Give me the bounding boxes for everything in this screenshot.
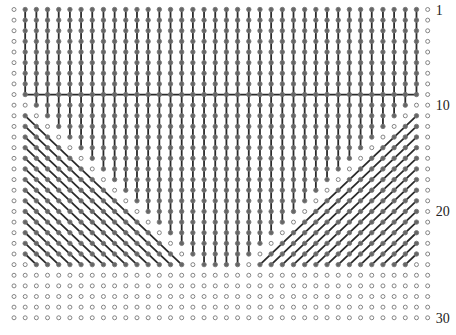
pin [101, 209, 105, 213]
pin [224, 209, 228, 213]
pin [213, 60, 217, 64]
pin [57, 177, 61, 181]
pin [12, 135, 16, 139]
pin [358, 7, 362, 11]
pin [370, 252, 374, 256]
pin [34, 316, 38, 320]
pin [23, 220, 27, 224]
pin [146, 71, 150, 75]
pin [191, 167, 195, 171]
pin [191, 284, 195, 288]
pin [79, 103, 83, 107]
pin [202, 295, 206, 299]
pin [381, 18, 385, 22]
pin [101, 103, 105, 107]
pin [90, 18, 94, 22]
pin [101, 284, 105, 288]
pin [168, 145, 172, 149]
pin [101, 295, 105, 299]
pin [426, 199, 430, 203]
pin [146, 199, 150, 203]
pin [157, 167, 161, 171]
pin [235, 167, 239, 171]
pin [146, 241, 150, 245]
pin [381, 71, 385, 75]
pin [124, 92, 128, 96]
pin [112, 135, 116, 139]
pin [302, 231, 306, 235]
pin [347, 29, 351, 33]
pin [34, 92, 38, 96]
pin [57, 252, 61, 256]
pin [291, 262, 295, 266]
pin [135, 305, 139, 309]
pin [280, 29, 284, 33]
pin [235, 220, 239, 224]
pin [258, 241, 262, 245]
pin [303, 273, 307, 277]
pin [157, 114, 161, 118]
pin [381, 156, 385, 160]
pin [124, 18, 128, 22]
pin [314, 7, 318, 11]
pin [213, 39, 217, 43]
pin [314, 199, 318, 203]
pin [79, 92, 83, 96]
pin [426, 124, 430, 128]
pin [292, 284, 296, 288]
pin [68, 262, 72, 266]
pin [12, 61, 16, 65]
pin [213, 135, 217, 139]
pin [370, 241, 374, 245]
pin [202, 209, 206, 213]
pin [168, 29, 172, 33]
pin [124, 39, 128, 43]
pin [68, 177, 72, 181]
pin [426, 146, 430, 150]
pin [347, 71, 351, 75]
pin [202, 188, 206, 192]
pin [381, 114, 385, 118]
pin [392, 50, 396, 54]
pin [90, 39, 94, 43]
pin [213, 71, 217, 75]
pin [157, 199, 161, 203]
pin [336, 231, 340, 235]
pin [269, 103, 273, 107]
pin [135, 241, 139, 245]
pin [235, 92, 239, 96]
pin [236, 273, 240, 277]
pin [23, 199, 27, 203]
pin [314, 177, 318, 181]
pin [202, 18, 206, 22]
pin [12, 178, 16, 182]
pin [370, 50, 374, 54]
pin [168, 39, 172, 43]
pin [79, 167, 83, 171]
pin [392, 177, 396, 181]
pin [302, 241, 306, 245]
pin [269, 50, 273, 54]
pin [202, 92, 206, 96]
pin [325, 103, 329, 107]
pin [392, 39, 396, 43]
pin [224, 145, 228, 149]
pin [79, 39, 83, 43]
pin [370, 7, 374, 11]
pin [68, 209, 72, 213]
pin [45, 50, 49, 54]
pin [426, 273, 430, 277]
pin [112, 220, 116, 224]
pin [12, 231, 16, 235]
pin [213, 252, 217, 256]
diagonal-wire-right [294, 148, 417, 265]
pin [202, 199, 206, 203]
pin [57, 71, 61, 75]
pin [269, 209, 273, 213]
pin [280, 135, 284, 139]
pin [414, 295, 418, 299]
pin [202, 114, 206, 118]
pin [146, 220, 150, 224]
pin [180, 124, 184, 128]
pin [280, 50, 284, 54]
